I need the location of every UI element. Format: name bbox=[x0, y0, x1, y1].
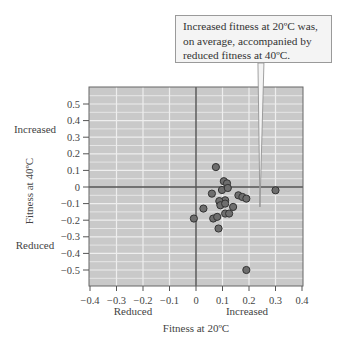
x-tick-label: −0.1 bbox=[160, 295, 179, 306]
annotation-line-1: Increased fitness at 20ºC was, bbox=[183, 19, 331, 34]
y-tick-label: 0.1 bbox=[67, 165, 80, 176]
data-point bbox=[243, 195, 250, 202]
x-tick-label: 0 bbox=[193, 295, 198, 306]
annotation-line-2: on average, accompanied by bbox=[183, 34, 331, 49]
x-region-label-increased: Increased bbox=[226, 305, 269, 317]
y-axis-ticks: 0.50.40.30.20.10−0.1−0.2−0.3−0.4−0.5 bbox=[61, 99, 89, 276]
data-point bbox=[214, 213, 221, 220]
y-tick-label: −0.3 bbox=[61, 231, 80, 242]
x-axis-title: Fitness at 20ºC bbox=[163, 322, 229, 334]
data-point bbox=[230, 203, 237, 210]
x-tick-label: 0.3 bbox=[269, 295, 282, 306]
data-point bbox=[200, 205, 207, 212]
data-point bbox=[212, 163, 219, 170]
data-point bbox=[226, 210, 233, 217]
x-axis-ticks: −0.4−0.3−0.2−0.100.10.20.30.4 bbox=[80, 286, 309, 306]
annotation-callout: Increased fitness at 20ºC was, on averag… bbox=[175, 15, 332, 63]
y-tick-label: 0.2 bbox=[67, 148, 80, 159]
y-tick-label: −0.5 bbox=[61, 265, 80, 276]
annotation-line-3: reduced fitness at 40ºC. bbox=[183, 48, 331, 63]
data-point bbox=[215, 225, 222, 232]
y-tick-label: 0.5 bbox=[67, 99, 80, 110]
y-tick-label: −0.1 bbox=[61, 198, 80, 209]
y-tick-label: −0.2 bbox=[61, 215, 80, 226]
y-tick-label: 0 bbox=[75, 182, 80, 193]
y-tick-label: 0.4 bbox=[67, 115, 81, 126]
y-axis-title: Fitness at 40ºC bbox=[23, 158, 35, 224]
y-region-label-increased: Increased bbox=[14, 123, 57, 135]
x-tick-label: 0.4 bbox=[295, 295, 309, 306]
data-point bbox=[190, 215, 197, 222]
data-point bbox=[224, 184, 231, 191]
data-point bbox=[222, 200, 229, 207]
data-point bbox=[272, 187, 279, 194]
x-tick-label: −0.4 bbox=[80, 295, 100, 306]
y-region-label-reduced: Reduced bbox=[16, 239, 55, 251]
y-tick-label: 0.3 bbox=[67, 132, 80, 143]
x-region-label-reduced: Reduced bbox=[114, 305, 153, 317]
y-tick-label: −0.4 bbox=[61, 248, 81, 259]
data-point bbox=[208, 190, 215, 197]
data-point bbox=[243, 266, 250, 273]
